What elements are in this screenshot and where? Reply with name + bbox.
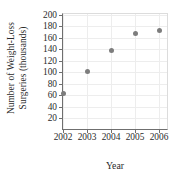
gridline-horizontal	[63, 118, 167, 119]
y-axis-title-text: Number of Weight-Loss Surgeries (thousan…	[6, 21, 29, 113]
y-tick-label: 80	[48, 79, 57, 89]
y-tick-label: 200	[43, 10, 57, 20]
scatter-chart-figure: Number of Weight-Loss Surgeries (thousan…	[0, 0, 178, 185]
gridline-horizontal	[63, 38, 167, 39]
x-tick-label: 2005	[126, 132, 145, 142]
data-point	[157, 28, 162, 33]
data-point	[85, 69, 90, 74]
y-axis-title: Number of Weight-Loss Surgeries (thousan…	[0, 0, 34, 135]
data-point	[109, 48, 114, 53]
y-tick-label: 120	[43, 56, 57, 66]
y-axis-title-line-1: Number of Weight-Loss	[6, 21, 18, 113]
y-tick-label: 40	[48, 102, 57, 112]
gridline-vertical	[63, 14, 64, 129]
y-tick-label: 100	[43, 67, 57, 77]
y-tick-label: 160	[43, 33, 57, 43]
gridline-horizontal	[63, 95, 167, 96]
gridline-horizontal	[63, 15, 167, 16]
gridline-horizontal	[63, 84, 167, 85]
x-tick-label: 2003	[78, 132, 97, 142]
y-tick-label: 180	[43, 21, 57, 31]
y-tick-label: 140	[43, 44, 57, 54]
gridline-horizontal	[63, 26, 167, 27]
x-axis-title: Year	[62, 160, 168, 171]
x-tick-label: 2002	[54, 132, 73, 142]
y-tick-label: 60	[48, 90, 57, 100]
y-axis-title-line-2: Surgeries (thousands)	[17, 21, 29, 113]
x-tick-label: 2004	[102, 132, 121, 142]
gridline-vertical	[111, 14, 112, 129]
plot-area: 200 180 160 140 120 100 80 60 40 20 2002…	[62, 13, 168, 130]
y-tick-label: 20	[48, 113, 57, 123]
data-point	[133, 31, 138, 36]
x-tick-label: 2006	[150, 132, 169, 142]
gridline-horizontal	[63, 49, 167, 50]
gridline-horizontal	[63, 107, 167, 108]
gridline-horizontal	[63, 72, 167, 73]
gridline-horizontal	[63, 61, 167, 62]
